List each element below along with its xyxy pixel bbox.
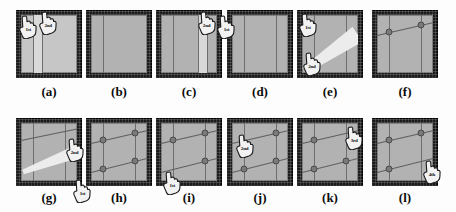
- panel-c: 2nd1st: [156, 10, 222, 78]
- vertical-construction-line[interactable]: [389, 15, 390, 73]
- hand-pointer-cursor[interactable]: 1st: [297, 13, 317, 37]
- hand-pointer-cursor[interactable]: 4th: [421, 160, 441, 184]
- panel-a: 1st2nd: [16, 10, 82, 78]
- cursor-order-label: 2nd: [237, 146, 253, 152]
- hand-pointer-cursor[interactable]: 1st: [71, 179, 91, 203]
- intersection-point[interactable]: [386, 28, 393, 35]
- intersection-point[interactable]: [241, 165, 248, 172]
- cursor-order-label: 2nd: [199, 23, 215, 29]
- intersection-point[interactable]: [417, 129, 424, 136]
- hand-pointer-cursor[interactable]: 3rd: [343, 126, 363, 150]
- intersection-point[interactable]: [272, 129, 279, 136]
- vertical-construction-line[interactable]: [244, 15, 245, 73]
- vertical-construction-line[interactable]: [33, 123, 34, 181]
- intersection-point[interactable]: [170, 136, 177, 143]
- panel-caption-a: (a): [19, 84, 79, 100]
- panel-caption-g: (g): [19, 190, 79, 206]
- cursor-order-label: 1st: [164, 183, 180, 189]
- cursor-order-label: 1st: [74, 191, 90, 197]
- hand-pointer-cursor[interactable]: 1st: [161, 171, 181, 195]
- panel-caption-d: (d): [230, 84, 290, 100]
- cursor-order-label: 4th: [424, 172, 440, 178]
- panel-caption-c: (c): [159, 84, 219, 100]
- hand-pointer-cursor[interactable]: 2nd: [234, 134, 254, 158]
- panel-h: [86, 118, 152, 186]
- hand-pointer-cursor[interactable]: 2nd: [64, 138, 84, 162]
- panel-d: [227, 10, 293, 78]
- panel-caption-e: (e): [300, 84, 360, 100]
- panel-i: 1st: [156, 118, 222, 186]
- panel-f: [372, 10, 438, 78]
- sketch-canvas[interactable]: [91, 123, 147, 181]
- panel-j: 2nd: [227, 118, 293, 186]
- hand-pointer-cursor[interactable]: 2nd: [301, 52, 321, 76]
- intersection-point[interactable]: [100, 136, 107, 143]
- hand-pointer-cursor[interactable]: 1st: [17, 15, 37, 39]
- sketch-canvas[interactable]: [232, 15, 288, 73]
- panel-b: [86, 10, 152, 78]
- panel-caption-h: (h): [89, 190, 149, 206]
- hand-pointer-cursor[interactable]: 1st: [215, 15, 235, 39]
- cursor-order-label: 1st: [20, 27, 36, 33]
- panel-e: 1st2nd: [297, 10, 363, 78]
- cursor-order-label: 2nd: [67, 150, 83, 156]
- panel-caption-k: (k): [300, 190, 360, 206]
- intersection-point[interactable]: [100, 165, 107, 172]
- hand-pointer-cursor[interactable]: 2nd: [196, 11, 216, 35]
- intersection-point[interactable]: [386, 165, 393, 172]
- panel-caption-b: (b): [89, 84, 149, 100]
- cursor-order-label: 2nd: [304, 64, 320, 70]
- intersection-point[interactable]: [201, 157, 208, 164]
- intersection-point[interactable]: [342, 157, 349, 164]
- intersection-point[interactable]: [131, 129, 138, 136]
- vertical-construction-line[interactable]: [103, 15, 104, 73]
- panel-l: 4th: [372, 118, 438, 186]
- cursor-order-label: 1st: [300, 25, 316, 31]
- panel-caption-f: (f): [375, 84, 435, 100]
- intersection-point[interactable]: [417, 21, 424, 28]
- vertical-construction-line[interactable]: [173, 15, 174, 73]
- sketch-canvas[interactable]: [91, 15, 147, 73]
- panel-g: 2nd1st: [16, 118, 82, 186]
- intersection-point[interactable]: [386, 136, 393, 143]
- cursor-order-label: 3rd: [346, 138, 362, 144]
- figure-panel-grid: 1st2nd(a)(b)2nd1st(c)(d)1st2nd(e)(f)2nd1…: [0, 0, 456, 212]
- intersection-point[interactable]: [201, 129, 208, 136]
- intersection-point[interactable]: [311, 136, 318, 143]
- panel-caption-j: (j): [230, 190, 290, 206]
- intersection-point[interactable]: [272, 157, 279, 164]
- cursor-order-label: 2nd: [40, 23, 56, 29]
- sketch-canvas[interactable]: [377, 15, 433, 73]
- panel-caption-l: (l): [375, 190, 435, 206]
- cursor-order-label: 1st: [218, 27, 234, 33]
- hand-pointer-cursor[interactable]: 2nd: [37, 11, 57, 35]
- intersection-point[interactable]: [131, 157, 138, 164]
- panel-k: 3rd: [297, 118, 363, 186]
- vertical-construction-line[interactable]: [276, 15, 277, 73]
- intersection-point[interactable]: [311, 165, 318, 172]
